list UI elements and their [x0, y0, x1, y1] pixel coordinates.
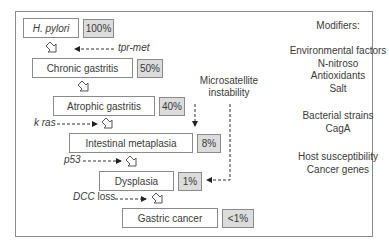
msi-to-dysplasia-arrow-icon [207, 104, 230, 180]
arrows-overlay [0, 0, 389, 249]
progression-arrow-icon [46, 42, 56, 52]
progression-arrow-icon [152, 193, 162, 203]
progression-arrow-icon [102, 118, 112, 128]
progression-arrow-icon [78, 81, 88, 91]
progression-arrow-icon [126, 156, 136, 166]
